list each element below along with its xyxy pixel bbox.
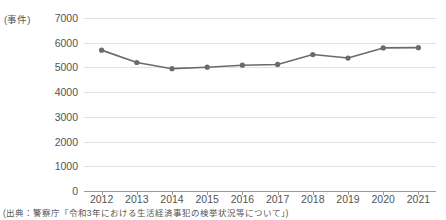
data-point-marker	[310, 52, 315, 57]
y-axis-tick-label: 7000	[30, 13, 78, 24]
data-point-marker	[240, 63, 245, 68]
series-line	[102, 48, 419, 69]
plot-area	[84, 18, 436, 191]
y-axis-tick-label: 6000	[30, 38, 78, 49]
data-point-marker	[169, 66, 174, 71]
y-axis-tick-label: 1000	[30, 161, 78, 172]
data-point-marker	[134, 60, 139, 65]
line-chart-figure: (事件) 01000200030004000500060007000 20122…	[0, 0, 446, 220]
data-point-marker	[205, 65, 210, 70]
y-axis-tick-label: 3000	[30, 112, 78, 123]
data-point-marker	[416, 45, 421, 50]
data-point-marker	[381, 45, 386, 50]
x-axis-tick-label: 2021	[395, 194, 441, 205]
y-axis-tick-label: 4000	[30, 87, 78, 98]
data-point-marker	[345, 55, 350, 60]
y-axis-tick-label: 2000	[30, 137, 78, 148]
data-point-marker	[99, 48, 104, 53]
y-axis-tick-label: 5000	[30, 62, 78, 73]
series-line-group	[84, 18, 436, 191]
y-axis-unit-label: (事件)	[4, 12, 30, 26]
data-point-marker	[275, 62, 280, 67]
y-axis-tick-label: 0	[30, 186, 78, 197]
source-note: (出典：警察庁「令和3年における生活経済事犯の検挙状況等について」)	[3, 206, 288, 218]
